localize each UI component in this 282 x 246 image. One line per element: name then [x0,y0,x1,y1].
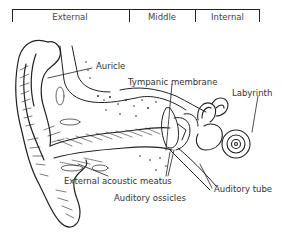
auditory-tube [170,148,216,190]
ear-canal [50,127,172,158]
label-tympanic-membrane: Tympanic membrane [128,77,217,87]
label-external-acoustic-meatus: External acoustic meatus [64,176,172,186]
label-auricle: Auricle [96,61,125,71]
ear-illustration [0,0,282,246]
label-auditory-tube: Auditory tube [214,184,272,194]
label-labyrinth: Labyrinth [232,88,272,98]
label-auditory-ossicles: Auditory ossicles [114,193,186,203]
labyrinth [196,98,250,158]
middle-ear [162,108,199,150]
auricle-hatching [20,66,74,218]
